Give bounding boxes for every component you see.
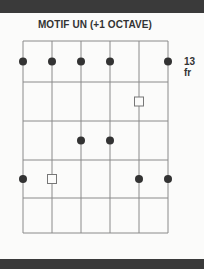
note-square-marker — [135, 97, 144, 106]
note-dot — [164, 58, 172, 66]
note-dot — [106, 137, 114, 145]
fretboard-diagram — [0, 0, 204, 269]
note-dot — [77, 137, 85, 145]
note-dot — [19, 58, 27, 66]
note-dot — [19, 175, 27, 183]
note-dot — [106, 58, 114, 66]
note-dot — [77, 58, 85, 66]
bottom-border-band — [0, 259, 204, 269]
note-dot — [135, 175, 143, 183]
fret-position-label: 13 fr — [184, 56, 204, 78]
note-dot — [164, 175, 172, 183]
note-square-marker — [48, 175, 57, 184]
note-dot — [48, 58, 56, 66]
